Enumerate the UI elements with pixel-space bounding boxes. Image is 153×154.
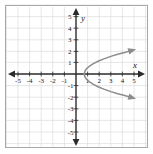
y-tick-label: 4	[68, 25, 72, 33]
y-tick-label: -1	[68, 82, 74, 90]
y-tick-label: -4	[68, 117, 74, 125]
y-tick-label: -3	[68, 105, 74, 113]
x-tick-label: 5	[132, 77, 136, 85]
y-tick-label: -2	[68, 94, 74, 102]
y-tick-label: -5	[68, 129, 74, 137]
y-tick-label: 1	[68, 59, 72, 67]
x-tick-label: -5	[15, 77, 21, 85]
x-tick-label: -3	[38, 77, 44, 85]
x-axis-label: x	[132, 60, 137, 70]
x-tick-label: 3	[109, 77, 113, 85]
x-tick-label: 4	[121, 77, 125, 85]
x-tick-label: -2	[50, 77, 56, 85]
y-tick-label: 3	[68, 36, 72, 44]
graph-figure: -5 -4 -3 -2 -1 1 2 3 4 5 5 4 3 2 1 -1 -2…	[0, 0, 153, 154]
coordinate-plane-chart: -5 -4 -3 -2 -1 1 2 3 4 5 5 4 3 2 1 -1 -2…	[0, 0, 153, 154]
y-tick-label: 2	[68, 48, 72, 56]
y-tick-label: 5	[68, 13, 72, 21]
x-tick-label: -4	[27, 77, 33, 85]
y-axis-label: y	[80, 13, 85, 23]
x-tick-label: 2	[97, 77, 101, 85]
